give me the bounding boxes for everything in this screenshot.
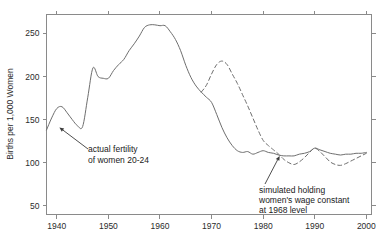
- y-tick-label: 250: [25, 28, 39, 38]
- x-tick-label: 1960: [151, 221, 170, 231]
- chart-svg: 50100150200250 1940195019601970198019902…: [0, 0, 384, 245]
- y-tick-label: 200: [25, 72, 39, 82]
- x-tick-label: 1980: [254, 221, 273, 231]
- x-tick-label: 1940: [47, 221, 66, 231]
- actual-annotation-line-1: actual fertility: [88, 144, 138, 154]
- x-tick-label: 1990: [305, 221, 324, 231]
- simulated-annotation-line-1: simulated holding: [259, 185, 325, 195]
- x-tick-label: 1950: [99, 221, 118, 231]
- x-tick-label: 2000: [357, 221, 376, 231]
- chart-background: [0, 0, 384, 245]
- x-tick-label: 1970: [202, 221, 221, 231]
- simulated-annotation-line-3: at 1968 level: [259, 205, 307, 215]
- y-tick-label: 100: [25, 158, 39, 168]
- y-axis-title: Births per 1,000 Women: [5, 68, 15, 160]
- y-tick-label: 50: [30, 201, 40, 211]
- fertility-chart: 50100150200250 1940195019601970198019902…: [0, 0, 384, 245]
- y-tick-label: 150: [25, 115, 39, 125]
- simulated-annotation-line-2: women's wage constant: [258, 195, 350, 205]
- actual-annotation-line-2: of women 20-24: [88, 155, 149, 165]
